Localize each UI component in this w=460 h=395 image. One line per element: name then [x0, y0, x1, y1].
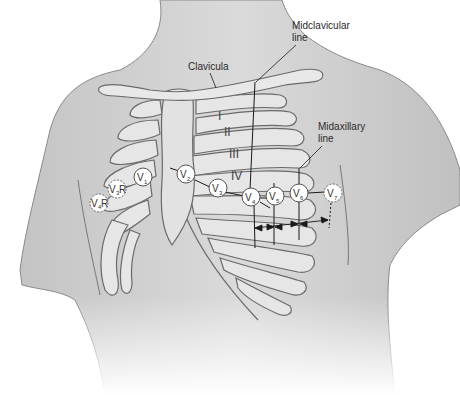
svg-text:R: R [101, 198, 108, 209]
ecg-lead-placement-diagram: Clavicula Midclavicular line Midaxillary… [0, 0, 460, 395]
label-midclavicular-1: Midclavicular [292, 20, 350, 31]
svg-text:V: V [293, 188, 300, 199]
intercostal-space-iii: III [229, 147, 239, 161]
intercostal-space-ii: II [224, 125, 231, 139]
label-clavicula: Clavicula [188, 61, 229, 72]
intercostal-space-iv: IV [231, 169, 242, 183]
electrode-v2: V 2 [177, 165, 195, 183]
electrode-v7: V 7 [324, 184, 342, 202]
label-midaxillary-2: line [318, 133, 334, 144]
svg-text:V: V [180, 169, 187, 180]
electrode-v4: V 4 [242, 188, 260, 206]
svg-text:V: V [245, 192, 252, 203]
svg-text:V: V [327, 188, 334, 199]
svg-text:V: V [109, 184, 116, 195]
svg-text:V: V [269, 191, 276, 202]
svg-text:V: V [212, 183, 219, 194]
electrode-v5: V 5 [266, 187, 284, 205]
label-midaxillary-1: Midaxillary [318, 121, 365, 132]
svg-text:V: V [91, 198, 98, 209]
svg-text:V: V [137, 172, 144, 183]
intercostal-space-i: I [218, 109, 221, 123]
label-midclavicular-2: line [292, 32, 308, 43]
electrode-v1: V 1 [134, 168, 152, 186]
electrode-v3: V 3 [209, 179, 227, 197]
svg-text:R: R [119, 184, 126, 195]
electrode-v6: V 6 [290, 184, 308, 202]
